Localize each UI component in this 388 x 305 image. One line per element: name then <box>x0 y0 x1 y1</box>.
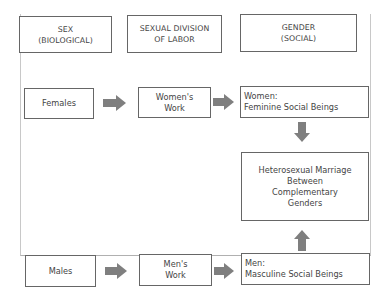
mens-work-line2: Work <box>165 270 186 281</box>
mens-work-box: Men's Work <box>139 254 212 286</box>
mens-work-line1: Men's <box>164 259 188 270</box>
marriage-line1: Heterosexual Marriage <box>259 165 352 176</box>
marriage-line2: Between <box>287 176 323 187</box>
women-gender-line2: Feminine Social Beings <box>244 102 338 113</box>
arrow-right-icon <box>214 263 234 279</box>
arrow-right-icon <box>213 94 234 110</box>
females-label: Females <box>42 98 76 109</box>
header-sex-line2: (BIOLOGICAL) <box>38 35 93 46</box>
womens-work-box: Women's Work <box>138 87 211 118</box>
males-label: Males <box>49 266 73 277</box>
arrow-down-icon <box>294 122 310 142</box>
header-gender-line2: (SOCIAL) <box>281 33 316 44</box>
header-division-line1: SEXUAL DIVISION <box>140 23 210 34</box>
header-division-line2: OF LABOR <box>154 34 195 45</box>
header-division-box: SEXUAL DIVISION OF LABOR <box>127 15 222 53</box>
marriage-box: Heterosexual Marriage Between Complement… <box>241 152 369 221</box>
arrow-right-icon <box>103 95 126 111</box>
men-gender-box: Men: Masculine Social Beings <box>241 253 370 285</box>
women-gender-line1: Women: <box>244 91 278 102</box>
marriage-line3: Complementary <box>272 187 338 198</box>
header-gender-box: GENDER (SOCIAL) <box>240 14 357 52</box>
womens-work-line1: Women's <box>156 92 193 103</box>
men-gender-line1: Men: <box>245 258 265 269</box>
females-box: Females <box>24 88 94 119</box>
marriage-line4: Genders <box>288 198 322 209</box>
arrow-up-icon <box>294 230 310 251</box>
womens-work-line2: Work <box>164 103 185 114</box>
header-sex-line1: SEX <box>58 24 74 35</box>
women-gender-box: Women: Feminine Social Beings <box>240 86 369 118</box>
men-gender-line2: Masculine Social Beings <box>245 269 343 280</box>
header-gender-line1: GENDER <box>282 22 316 33</box>
header-sex-box: SEX (BIOLOGICAL) <box>19 16 112 53</box>
males-box: Males <box>25 255 96 287</box>
arrow-right-icon <box>105 263 127 279</box>
